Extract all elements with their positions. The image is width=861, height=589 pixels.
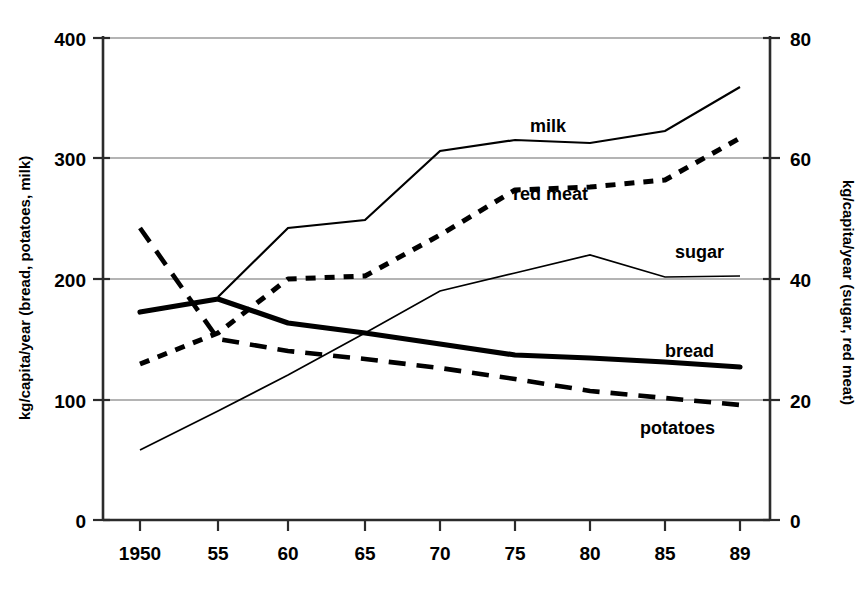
y-left-label-300: 300 — [54, 149, 86, 170]
y-axis-right-labels: 80 60 40 20 0 — [790, 29, 811, 532]
y-left-label-100: 100 — [54, 391, 86, 412]
y-axis-right-title: kg/capita/year (sugar, red meat) — [840, 180, 857, 405]
y-right-label-20: 20 — [790, 391, 811, 412]
y-left-label-0: 0 — [75, 511, 86, 532]
series-line-bread — [140, 299, 740, 367]
y-left-label-200: 200 — [54, 270, 86, 291]
x-label-70: 70 — [429, 543, 450, 564]
x-label-75: 75 — [504, 543, 526, 564]
line-chart-canvas: 400 300 200 100 0 80 60 40 20 0 1950 55 … — [0, 0, 861, 589]
x-label-80: 80 — [579, 543, 600, 564]
x-label-65: 65 — [354, 543, 376, 564]
x-label-1950: 1950 — [119, 543, 161, 564]
y-axis-left-title: kg/capita/year (bread, potatoes, milk) — [16, 156, 33, 420]
chart-figure: 400 300 200 100 0 80 60 40 20 0 1950 55 … — [0, 0, 861, 589]
series-label-sugar: sugar — [675, 242, 724, 262]
y-right-label-80: 80 — [790, 29, 811, 50]
series-line-potatoes — [140, 228, 740, 405]
y-axis-left-labels: 400 300 200 100 0 — [54, 29, 86, 532]
x-axis-ticks — [140, 520, 740, 531]
series-label-red-meat: red meat — [513, 184, 588, 204]
series-label-potatoes: potatoes — [640, 418, 715, 438]
y-right-label-60: 60 — [790, 149, 811, 170]
y-left-label-400: 400 — [54, 29, 86, 50]
x-axis-labels: 1950 55 60 65 70 75 80 85 89 — [119, 543, 751, 564]
y-right-label-0: 0 — [790, 511, 801, 532]
y-right-label-40: 40 — [790, 270, 811, 291]
x-label-89: 89 — [729, 543, 750, 564]
series-label-bread: bread — [665, 341, 714, 361]
series-label-milk: milk — [530, 116, 567, 136]
x-label-55: 55 — [207, 543, 229, 564]
y-axis-left-ticks — [93, 38, 110, 520]
series-line-red-meat — [140, 138, 740, 364]
y-axis-right-ticks — [763, 38, 780, 520]
x-label-85: 85 — [654, 543, 676, 564]
series-line-milk — [218, 87, 740, 297]
x-label-60: 60 — [277, 543, 298, 564]
series-group — [140, 87, 740, 450]
